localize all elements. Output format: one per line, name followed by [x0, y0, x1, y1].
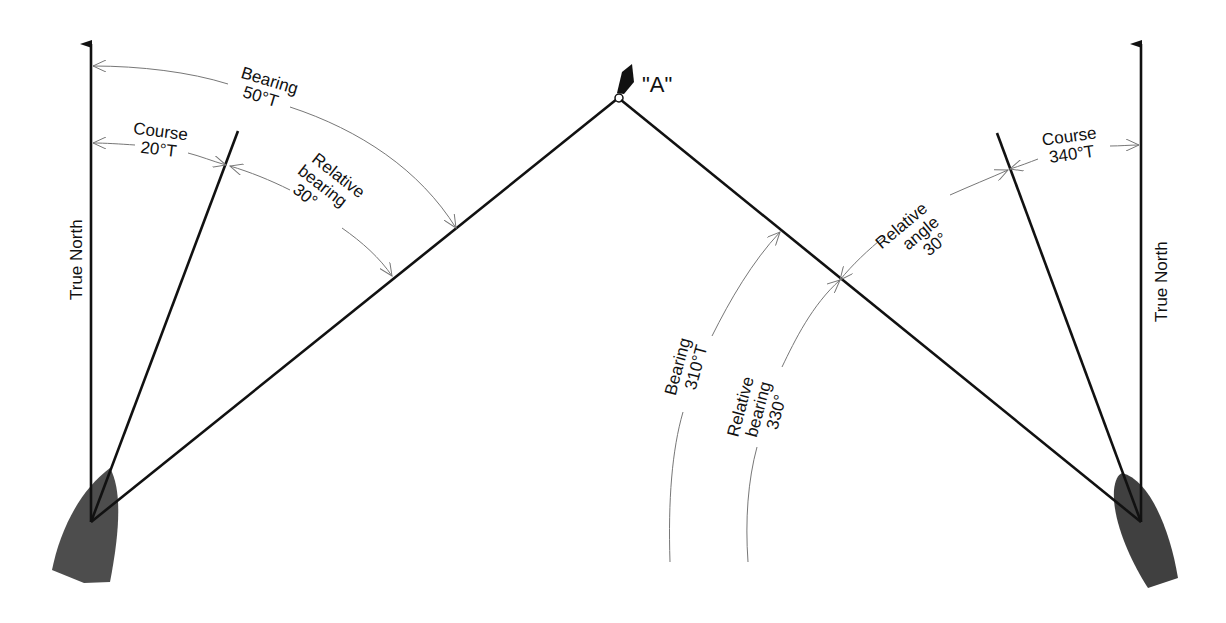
- left-vessel-hull-icon: [52, 468, 118, 583]
- left-course-value: 20°T: [139, 138, 177, 161]
- object-a-label: "A": [642, 72, 672, 97]
- left-true-north-label: True North: [67, 219, 86, 300]
- right-true-north-label: True North: [1152, 241, 1171, 322]
- bearing-diagram: True North Bearing 50°T Course 20°T Rela…: [0, 0, 1226, 623]
- buoy-icon: [617, 64, 634, 94]
- right-vessel-hull-icon: [1114, 473, 1178, 588]
- object-a-group: "A": [615, 64, 672, 102]
